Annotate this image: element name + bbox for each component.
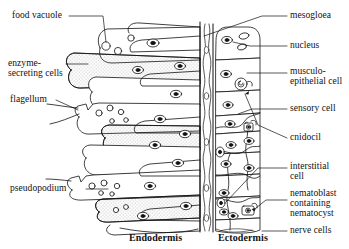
label-endodermis: Endodermis	[129, 233, 182, 244]
hydra-body-wall-diagram: food vacuole enzyme- secreting cells fla…	[0, 0, 349, 249]
label-musculo-epithelial-cell-line2: epithelial cell	[290, 76, 342, 87]
label-musculo-epithelial-cell: musculo-	[290, 66, 326, 77]
mesogloea-band	[200, 22, 213, 232]
flagellum-strand	[47, 104, 79, 124]
label-food-vacuole: food vacuole	[12, 10, 62, 21]
label-nematoblast-line3: nematocyst	[290, 208, 334, 219]
label-nematoblast: nematoblast	[290, 188, 336, 199]
label-enzyme-secreting-cells-line2: secreting cells	[8, 68, 63, 79]
label-enzyme-secreting-cells: enzyme-	[8, 58, 41, 69]
label-interstitial-cell-line2: cell	[290, 171, 304, 182]
label-cnidocil: cnidocil	[290, 132, 321, 143]
label-interstitial-cell: interstitial	[290, 161, 329, 172]
pseudopodium-strand	[46, 179, 71, 181]
label-nerve-cells: nerve cells	[290, 225, 331, 236]
label-flagellum: flagellum	[10, 94, 47, 105]
label-mesogloea: mesogloea	[290, 10, 331, 21]
label-nucleus: nucleus	[290, 40, 319, 51]
label-pseudopodium: pseudopodium	[10, 183, 67, 194]
label-sensory-cell: sensory cell	[290, 103, 336, 114]
label-nematoblast-line2: containing	[290, 198, 331, 209]
label-ectodermis: Ectodermis	[218, 233, 268, 244]
